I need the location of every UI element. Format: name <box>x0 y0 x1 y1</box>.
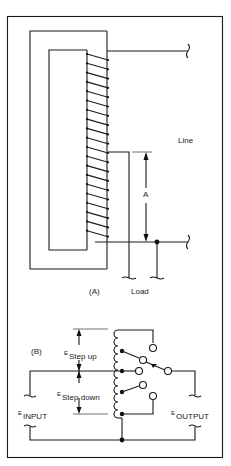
step-up-label: EStep up <box>64 346 97 362</box>
line-label: Line <box>178 137 193 145</box>
step-up-text: Step up <box>69 352 97 361</box>
panel-b-label: (B) <box>31 348 42 356</box>
step-down-text: Step down <box>62 393 100 402</box>
autotransformer-diagram <box>0 0 231 466</box>
load-leads <box>108 152 164 279</box>
figure-border <box>8 17 223 458</box>
step-down-label: EStep down <box>57 387 100 403</box>
dimension-a-label: A <box>143 191 148 199</box>
coil-winding <box>86 53 109 238</box>
input-label: EINPUT <box>18 406 47 422</box>
input-text: INPUT <box>23 412 47 421</box>
output-text: OUTPUT <box>176 412 209 421</box>
e-symbol: E <box>18 410 22 416</box>
tap-switches <box>118 330 195 416</box>
e-symbol: E <box>57 391 61 397</box>
load-label: Load <box>131 288 149 296</box>
tapped-coil <box>114 330 122 440</box>
panel-a-label: (A) <box>89 288 100 296</box>
dimension-a-arrow <box>132 152 152 242</box>
line-leads <box>95 44 190 249</box>
output-label: EOUTPUT <box>171 406 209 422</box>
e-symbol: E <box>64 350 68 356</box>
e-symbol: E <box>171 410 175 416</box>
